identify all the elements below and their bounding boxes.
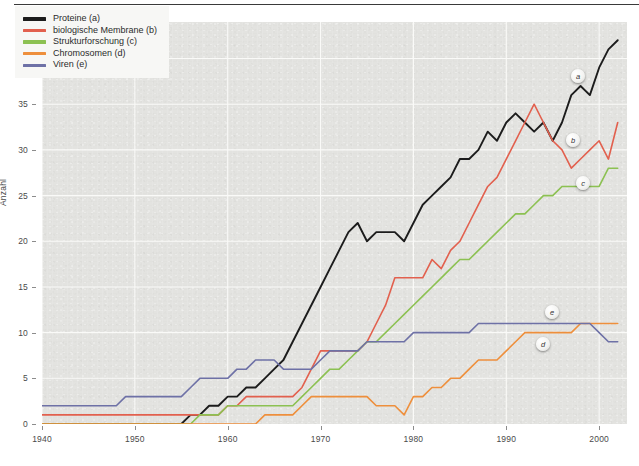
- x-tick-label: 1960: [208, 434, 248, 444]
- y-tick-label: 10: [6, 328, 28, 338]
- series-lines: [42, 40, 618, 424]
- gridlines: [42, 22, 627, 424]
- x-tick-label: 2000: [579, 434, 619, 444]
- x-tick-mark: [413, 426, 414, 430]
- legend-item[interactable]: biologische Membrane (b): [23, 25, 157, 37]
- chart-page: Anzahl 0510152025303540 1940195019601970…: [0, 0, 639, 466]
- y-tick-label: 15: [6, 282, 28, 292]
- legend-swatch-4: [23, 52, 46, 55]
- series-line-d: [42, 324, 618, 425]
- series-line-a: [42, 40, 618, 424]
- legend-item[interactable]: Viren (e): [23, 59, 157, 71]
- chart-svg: [42, 22, 627, 424]
- legend-swatch-1: [23, 17, 46, 21]
- x-tick-label: 1950: [115, 434, 155, 444]
- y-tick-mark: [32, 150, 36, 151]
- legend-label: Proteine (a): [53, 13, 100, 25]
- legend-item[interactable]: Proteine (a): [23, 13, 157, 25]
- y-tick-label: 25: [6, 191, 28, 201]
- callout-badge-b: b: [566, 133, 580, 147]
- callout-badge-e: e: [545, 305, 559, 319]
- y-tick-mark: [32, 196, 36, 197]
- legend-label: biologische Membrane (b): [53, 25, 157, 37]
- y-tick-mark: [32, 378, 36, 379]
- callout-badge-a: a: [571, 69, 585, 83]
- page-top-rule: [14, 4, 639, 5]
- legend-label: Chromosomen (d): [53, 48, 126, 60]
- x-tick-mark: [321, 426, 322, 430]
- legend-label: Viren (e): [53, 59, 87, 71]
- x-tick-mark: [42, 426, 43, 430]
- y-tick-label: 30: [6, 145, 28, 155]
- y-tick-mark: [32, 333, 36, 334]
- legend-swatch-5: [23, 64, 46, 67]
- legend-swatch-2: [23, 29, 46, 32]
- y-tick-label: 0: [6, 419, 28, 429]
- y-tick-mark: [32, 104, 36, 105]
- y-tick-label: 35: [6, 99, 28, 109]
- legend-label: Strukturforschung (c): [53, 36, 137, 48]
- legend-swatch-3: [23, 40, 46, 43]
- x-tick-mark: [506, 426, 507, 430]
- y-tick-label: 20: [6, 236, 28, 246]
- x-tick-mark: [228, 426, 229, 430]
- y-tick-label: 5: [6, 373, 28, 383]
- x-tick-label: 1940: [22, 434, 62, 444]
- x-tick-label: 1990: [486, 434, 526, 444]
- y-tick-mark: [32, 241, 36, 242]
- callout-badge-c: c: [576, 176, 590, 190]
- y-tick-mark: [32, 287, 36, 288]
- chart-legend: Proteine (a)biologische Membrane (b)Stru…: [15, 6, 169, 78]
- series-line-e: [42, 324, 618, 406]
- callout-badge-d: d: [536, 337, 550, 351]
- x-tick-mark: [135, 426, 136, 430]
- series-line-b: [42, 104, 618, 415]
- legend-item[interactable]: Strukturforschung (c): [23, 36, 157, 48]
- legend-item[interactable]: Chromosomen (d): [23, 48, 157, 60]
- x-tick-mark: [599, 426, 600, 430]
- plot-area: [42, 22, 627, 424]
- x-tick-label: 1980: [393, 434, 433, 444]
- y-tick-mark: [32, 424, 36, 425]
- series-line-c: [42, 168, 618, 424]
- x-tick-label: 1970: [301, 434, 341, 444]
